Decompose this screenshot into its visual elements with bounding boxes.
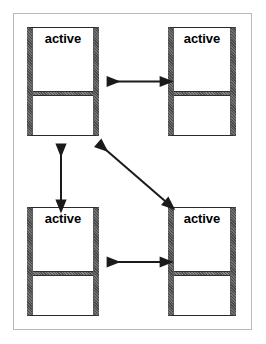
state-node-label: active: [184, 31, 220, 46]
state-node-inner: active: [173, 28, 231, 135]
state-node-inner: active: [32, 208, 94, 315]
state-node-bottom-left[interactable]: active: [27, 207, 99, 316]
state-node-top-right[interactable]: active: [168, 27, 236, 136]
state-node-top-left[interactable]: active: [27, 27, 99, 136]
state-node-body: [174, 96, 230, 135]
state-node-inner: active: [173, 208, 231, 315]
state-node-label-cell: active: [174, 208, 230, 271]
state-node-label-cell: active: [174, 28, 230, 91]
state-node-label: active: [45, 211, 81, 226]
state-node-body: [174, 276, 230, 315]
state-node-inner: active: [32, 28, 94, 135]
state-node-label: active: [184, 211, 220, 226]
state-node-label-cell: active: [33, 208, 93, 271]
state-node-bottom-right[interactable]: active: [168, 207, 236, 316]
diagram-canvas: active active active active: [0, 0, 266, 344]
state-node-label: active: [45, 31, 81, 46]
state-node-body: [33, 96, 93, 135]
state-node-label-cell: active: [33, 28, 93, 91]
state-node-body: [33, 276, 93, 315]
